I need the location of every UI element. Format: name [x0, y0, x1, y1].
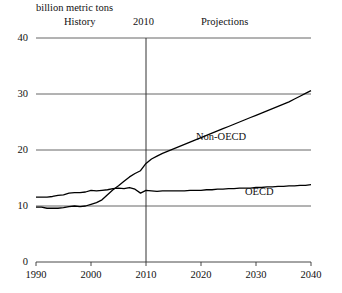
- x-tick-label: 2000: [71, 269, 111, 280]
- x-tick-label: 2020: [181, 269, 221, 280]
- x-tick-label: 1990: [16, 269, 56, 280]
- chart-figure: billion metric tons History 2010 Project…: [0, 0, 342, 293]
- series-label-oecd: OECD: [245, 186, 274, 198]
- y-tick-label: 40: [2, 32, 28, 43]
- x-tick-label: 2010: [126, 269, 166, 280]
- x-tick-marks: [36, 262, 311, 266]
- y-tick-label: 10: [2, 200, 28, 211]
- plot-area: [0, 0, 342, 293]
- series-label-non-oecd: Non-OECD: [196, 131, 246, 143]
- x-tick-label: 2040: [291, 269, 331, 280]
- y-tick-label: 20: [2, 144, 28, 155]
- x-tick-label: 2030: [236, 269, 276, 280]
- y-tick-label: 0: [2, 256, 28, 267]
- y-tick-label: 30: [2, 88, 28, 99]
- gridlines: [36, 38, 311, 262]
